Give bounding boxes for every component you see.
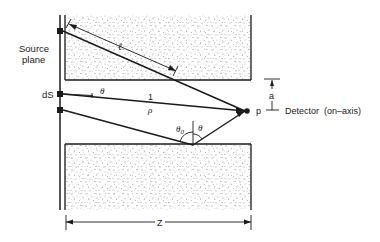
incident-ray-lower [63, 110, 193, 145]
source-point-lower [57, 107, 63, 113]
direct-ray [63, 94, 245, 111]
theta0-label: θ0 [176, 124, 184, 136]
source-plane-label-line2: plane [22, 54, 45, 65]
source-point-ds [57, 91, 63, 97]
theta-upper-label: θ [100, 86, 105, 96]
source-point-upper [57, 28, 63, 34]
theta-arc [193, 134, 202, 139]
lower-collimator-block [65, 144, 251, 210]
detector-label: Detector (on–axis) [285, 106, 361, 116]
z-label: Z [157, 218, 163, 228]
theta-lower-label: θ [198, 123, 203, 133]
a-label: a [269, 91, 274, 101]
one-label: 1 [148, 92, 153, 102]
diagram-canvas: ℓ θ 1 ρ θ0 θ p a Detector (on–axis) Sour… [0, 0, 380, 242]
source-plane-label-line1: Source [19, 43, 49, 54]
ell-label: ℓ [118, 41, 122, 52]
detector-point [244, 108, 250, 114]
upper-collimator-block [65, 15, 251, 80]
rho-label: ρ [147, 105, 153, 115]
ds-label: dS [42, 89, 54, 100]
p-label: p [256, 106, 261, 116]
